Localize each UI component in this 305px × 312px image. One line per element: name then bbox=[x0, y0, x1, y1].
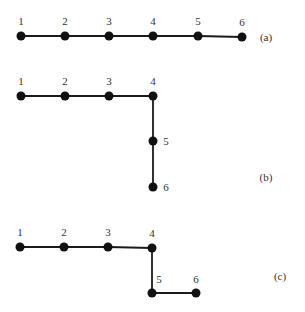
node-1 bbox=[17, 32, 26, 41]
node-4 bbox=[148, 244, 157, 253]
chain-diagrams: 123456(a)123456(b)123456(c) bbox=[0, 0, 305, 312]
node-label: 5 bbox=[163, 135, 169, 147]
diagram-caption: (c) bbox=[274, 270, 287, 283]
node-5 bbox=[149, 137, 158, 146]
node-3 bbox=[104, 243, 113, 252]
node-3 bbox=[105, 32, 114, 41]
diagram-caption: (a) bbox=[260, 31, 273, 44]
node-6 bbox=[149, 183, 158, 192]
node-2 bbox=[61, 32, 70, 41]
node-2 bbox=[60, 243, 69, 252]
node-4 bbox=[149, 92, 158, 101]
node-1 bbox=[16, 243, 25, 252]
node-label: 5 bbox=[195, 15, 201, 27]
node-label: 4 bbox=[150, 75, 156, 87]
edge bbox=[198, 36, 242, 37]
node-label: 1 bbox=[18, 75, 24, 87]
diagram-c: 123456(c) bbox=[16, 226, 287, 298]
node-2 bbox=[61, 92, 70, 101]
node-3 bbox=[105, 92, 114, 101]
node-label: 1 bbox=[17, 226, 23, 238]
node-6 bbox=[192, 289, 201, 298]
node-label: 2 bbox=[62, 15, 68, 27]
node-label: 2 bbox=[62, 75, 68, 87]
node-label: 6 bbox=[239, 16, 245, 28]
node-label: 3 bbox=[105, 226, 111, 238]
diagram-b: 123456(b) bbox=[17, 75, 273, 193]
node-label: 3 bbox=[106, 15, 112, 27]
node-label: 6 bbox=[193, 273, 199, 285]
node-label: 1 bbox=[18, 15, 24, 27]
node-5 bbox=[148, 289, 157, 298]
node-label: 5 bbox=[156, 273, 162, 285]
node-label: 3 bbox=[106, 75, 112, 87]
diagram-caption: (b) bbox=[260, 171, 273, 184]
edge bbox=[108, 247, 152, 248]
node-6 bbox=[238, 33, 247, 42]
node-label: 2 bbox=[61, 226, 67, 238]
node-label: 4 bbox=[150, 15, 156, 27]
node-label: 6 bbox=[163, 181, 169, 193]
node-4 bbox=[149, 32, 158, 41]
node-1 bbox=[17, 92, 26, 101]
node-label: 4 bbox=[149, 227, 155, 239]
diagram-a: 123456(a) bbox=[17, 15, 273, 44]
node-5 bbox=[194, 32, 203, 41]
